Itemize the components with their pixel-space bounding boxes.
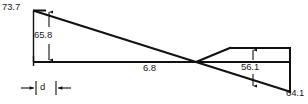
outline-secondary-diagonal (196, 48, 231, 63)
label-top-left-height: 73.7 (2, 2, 20, 12)
outline-main-diagonal (33, 11, 291, 93)
technical-drawing (0, 0, 308, 104)
label-bottom-right-height: 64.1 (286, 88, 304, 98)
label-width-symbol: d (40, 82, 45, 92)
label-center-dimension: 6.8 (143, 63, 156, 73)
label-left-inner-dimension: 65.8 (34, 30, 52, 40)
diagram-canvas: 73.7 65.8 6.8 56.1 64.1 d (0, 0, 308, 104)
label-right-inner-dimension: 56.1 (241, 62, 259, 72)
